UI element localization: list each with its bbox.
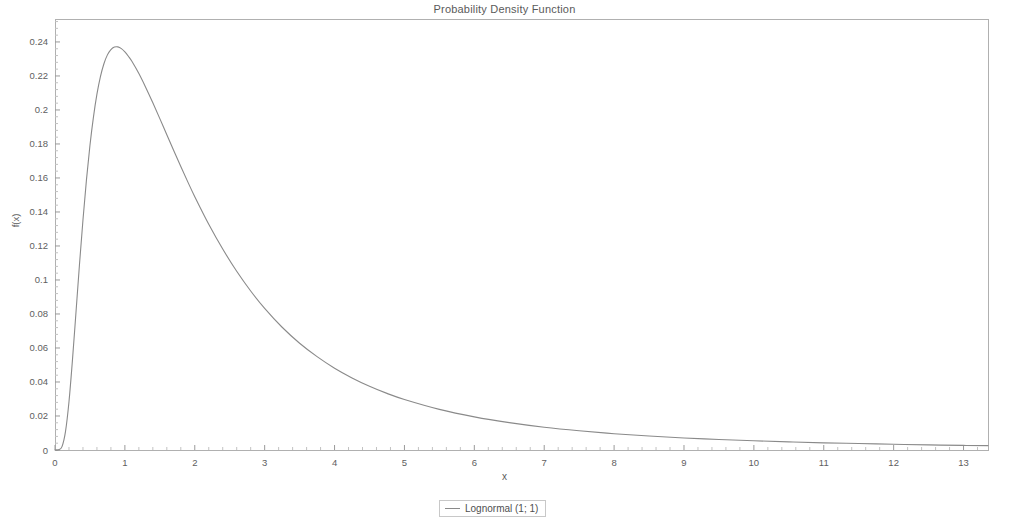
x-axis-label: x <box>0 471 1009 482</box>
y-axis-tick-label: 0.06 <box>30 342 49 353</box>
x-axis-tick-label: 6 <box>472 457 477 468</box>
y-axis-tick-label: 0 <box>43 445 48 456</box>
x-axis-tick-label: 5 <box>402 457 407 468</box>
data-series-line <box>55 47 988 450</box>
x-axis-tick-label: 10 <box>749 457 760 468</box>
y-axis-tick-label: 0.08 <box>30 308 49 319</box>
y-axis-label: f(x) <box>10 198 21 244</box>
x-axis-tick-label: 0 <box>52 457 57 468</box>
y-axis-tick-label: 0.14 <box>30 206 49 217</box>
x-axis-tick-label: 12 <box>888 457 899 468</box>
x-axis-tick-label: 2 <box>192 457 197 468</box>
y-axis-tick-label: 0.18 <box>30 138 49 149</box>
x-axis-tick-label: 9 <box>681 457 686 468</box>
plot-canvas: 01234567891011121300.020.040.060.080.10.… <box>0 0 1009 524</box>
x-axis-tick-label: 7 <box>542 457 547 468</box>
y-axis-tick-label: 0.12 <box>30 240 49 251</box>
x-axis-tick-label: 13 <box>958 457 969 468</box>
chart-legend: Lognormal (1; 1) <box>439 500 546 517</box>
plot-frame <box>56 20 989 451</box>
x-axis-tick-label: 8 <box>611 457 616 468</box>
x-axis-tick-label: 11 <box>819 457 829 468</box>
chart-figure: Probability Density Function 01234567891… <box>0 0 1009 524</box>
y-axis-tick-label: 0.16 <box>30 172 49 183</box>
y-axis-tick-label: 0.02 <box>30 410 49 421</box>
y-axis-tick-label: 0.24 <box>30 36 49 47</box>
x-axis-tick-label: 4 <box>332 457 337 468</box>
y-axis-tick-label: 0.1 <box>35 274 48 285</box>
x-axis-tick-label: 1 <box>122 457 127 468</box>
y-axis-tick-label: 0.22 <box>30 70 49 81</box>
y-axis-tick-label: 0.04 <box>30 376 49 387</box>
x-axis-tick-label: 3 <box>262 457 267 468</box>
y-axis-tick-label: 0.2 <box>35 104 48 115</box>
legend-entry-label: Lognormal (1; 1) <box>465 504 538 514</box>
legend-line-swatch <box>445 508 460 509</box>
